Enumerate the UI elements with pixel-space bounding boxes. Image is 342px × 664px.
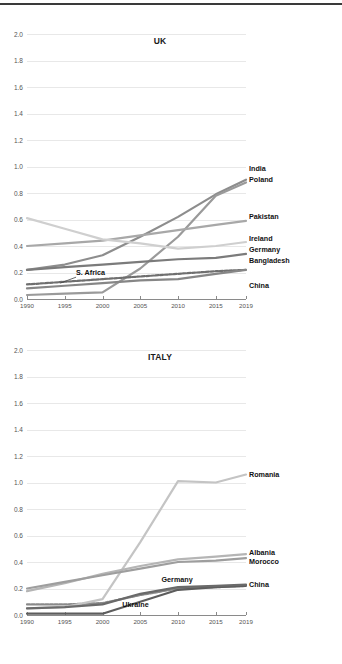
- series-label-romania: Romania: [249, 471, 279, 479]
- top-divider-rule: [0, 3, 342, 5]
- italy-chart-panel: ITALY 0.00.20.40.60.81.01.21.41.61.82.01…: [0, 336, 342, 656]
- inline-series-label-germany: Germany: [162, 576, 193, 584]
- series-label-morocco: Morocco: [249, 558, 279, 566]
- series-label-bangladesh: Bangladesh: [249, 257, 290, 265]
- series-label-poland: Poland: [249, 176, 273, 184]
- series-label-china: China: [249, 581, 269, 589]
- italy-plot-lines: [0, 336, 342, 656]
- series-label-ireland: Ireland: [249, 235, 273, 243]
- series-label-pakistan: Pakistan: [249, 213, 279, 221]
- uk-plot-lines: [0, 18, 342, 340]
- series-label-albania: Albania: [249, 549, 275, 557]
- chart-page: UK 0.00.20.40.60.81.01.21.41.61.82.01990…: [0, 0, 342, 664]
- series-line-china: [27, 270, 246, 289]
- series-label-india: India: [249, 165, 266, 173]
- series-label-china: China: [249, 282, 269, 290]
- series-line-germany: [27, 254, 246, 270]
- annotation-label-s-africa: S. Africa: [76, 269, 105, 277]
- inline-series-label-ukraine: Ukraine: [122, 601, 148, 609]
- uk-chart-panel: UK 0.00.20.40.60.81.01.21.41.61.82.01990…: [0, 18, 342, 340]
- series-label-germany: Germany: [249, 246, 280, 254]
